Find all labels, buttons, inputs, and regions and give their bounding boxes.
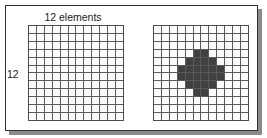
grid-cell bbox=[154, 113, 161, 120]
grid-cell bbox=[209, 26, 216, 33]
grid-cell bbox=[178, 50, 185, 57]
grid-cell bbox=[69, 34, 76, 41]
grid-cell bbox=[53, 81, 60, 88]
grid-cell bbox=[217, 113, 224, 120]
grid-cell bbox=[217, 81, 224, 88]
grid-cell bbox=[29, 97, 36, 104]
grid-cell bbox=[84, 81, 91, 88]
grid-cell bbox=[225, 81, 232, 88]
grid-cell bbox=[69, 81, 76, 88]
grid-cell bbox=[178, 113, 185, 120]
grid-cell bbox=[100, 89, 107, 96]
grid-cell bbox=[53, 26, 60, 33]
grid-cell bbox=[45, 73, 52, 80]
grid-cell bbox=[29, 66, 36, 73]
grid-cell bbox=[92, 58, 99, 65]
grid-cell bbox=[100, 42, 107, 49]
grid-cell bbox=[76, 26, 83, 33]
grid-cell bbox=[61, 105, 68, 112]
grid-cell bbox=[53, 42, 60, 49]
grid-cell bbox=[108, 81, 115, 88]
grid-cell bbox=[76, 66, 83, 73]
grid-cell bbox=[61, 34, 68, 41]
grid-cell bbox=[186, 26, 193, 33]
grid-cell bbox=[154, 66, 161, 73]
grid-cell bbox=[170, 105, 177, 112]
grid-cell bbox=[186, 50, 193, 57]
grid-cell bbox=[209, 105, 216, 112]
grid-cell bbox=[45, 89, 52, 96]
grid-cell bbox=[84, 105, 91, 112]
grid-cell bbox=[53, 105, 60, 112]
grid-cell bbox=[162, 50, 169, 57]
figure-root: 12 elements 12 bbox=[0, 0, 267, 138]
grid-cell bbox=[100, 97, 107, 104]
grid-cell bbox=[186, 42, 193, 49]
grid-cell bbox=[116, 81, 123, 88]
grid-cell bbox=[241, 73, 248, 80]
grid-cell bbox=[178, 97, 185, 104]
grid-cell bbox=[45, 26, 52, 33]
grid-cell bbox=[225, 26, 232, 33]
grid-cell bbox=[154, 89, 161, 96]
grid-cell bbox=[233, 113, 240, 120]
grid-cell bbox=[53, 50, 60, 57]
grid-cell bbox=[116, 73, 123, 80]
grid-cell bbox=[84, 66, 91, 73]
grid-cell bbox=[37, 50, 44, 57]
grid-cell bbox=[69, 50, 76, 57]
grid-cell bbox=[201, 89, 208, 96]
grid-cell bbox=[76, 34, 83, 41]
grid-cell bbox=[53, 66, 60, 73]
grid-cell bbox=[170, 58, 177, 65]
grid-cell bbox=[170, 89, 177, 96]
grid-cell bbox=[76, 58, 83, 65]
grid-cell bbox=[154, 26, 161, 33]
grid-cell bbox=[194, 26, 201, 33]
grid-cell bbox=[194, 50, 201, 57]
grid-cell bbox=[76, 97, 83, 104]
grid-cell bbox=[162, 34, 169, 41]
grid-cell bbox=[45, 50, 52, 57]
grid-cell bbox=[201, 105, 208, 112]
grid-cell bbox=[162, 81, 169, 88]
grid-cell bbox=[209, 113, 216, 120]
grid-cell bbox=[186, 89, 193, 96]
grid-cell bbox=[100, 26, 107, 33]
grid-cell bbox=[178, 66, 185, 73]
grid-cell bbox=[209, 97, 216, 104]
grid-cell bbox=[84, 50, 91, 57]
figure-frame: 12 elements 12 bbox=[5, 5, 258, 131]
grid-cell bbox=[170, 113, 177, 120]
grid-cell bbox=[154, 81, 161, 88]
grid-cell bbox=[100, 66, 107, 73]
grid-cell bbox=[37, 73, 44, 80]
grid-cell bbox=[178, 58, 185, 65]
grid-cell bbox=[92, 66, 99, 73]
grid-cell bbox=[217, 42, 224, 49]
grid-cell bbox=[100, 58, 107, 65]
grid-cell bbox=[69, 89, 76, 96]
grid-cell bbox=[69, 105, 76, 112]
grid-cell bbox=[194, 34, 201, 41]
grid-cell bbox=[162, 89, 169, 96]
grid-cell bbox=[29, 42, 36, 49]
grid-cell bbox=[225, 58, 232, 65]
grid-cell bbox=[69, 42, 76, 49]
grid-cell bbox=[194, 81, 201, 88]
grid-cell bbox=[217, 89, 224, 96]
grid-cell bbox=[92, 34, 99, 41]
grid-cell bbox=[45, 97, 52, 104]
grid-cell bbox=[116, 97, 123, 104]
grid-cell bbox=[84, 26, 91, 33]
grid-cell bbox=[108, 26, 115, 33]
grid-cell bbox=[53, 89, 60, 96]
grid-cell bbox=[154, 34, 161, 41]
grid-cell bbox=[108, 89, 115, 96]
grid-cell bbox=[69, 66, 76, 73]
grid-cell bbox=[233, 50, 240, 57]
grid-cell bbox=[217, 66, 224, 73]
grid-cell bbox=[209, 34, 216, 41]
grid-cell bbox=[209, 73, 216, 80]
grid-cell bbox=[225, 34, 232, 41]
